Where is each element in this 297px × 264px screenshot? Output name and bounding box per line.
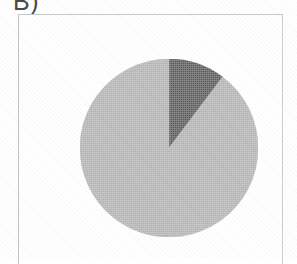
pie-slice-minor[interactable]: [80, 59, 258, 237]
pie-chart: [80, 59, 258, 237]
pie-chart-svg: [80, 59, 258, 237]
pie-slices: [80, 59, 258, 237]
panel-label: B): [13, 0, 39, 14]
plot-frame: [18, 14, 283, 264]
